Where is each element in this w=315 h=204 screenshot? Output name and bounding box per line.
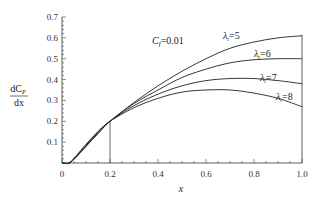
y-tick-label: 0.3 <box>47 95 59 105</box>
series-line-7 <box>62 78 302 163</box>
x-axis-label: x <box>178 183 184 194</box>
x-tick-label: 0.6 <box>200 169 212 179</box>
cf-annotation: Cf=0.01 <box>152 35 184 48</box>
chart: 0.10.20.30.40.50.60.700.20.40.60.81.0 Cf… <box>0 0 315 204</box>
x-tick-label: 0.8 <box>248 169 260 179</box>
series-line-8 <box>62 90 302 164</box>
y-tick-label: 0.2 <box>47 116 58 126</box>
y-tick-label: 0.6 <box>47 33 59 43</box>
x-tick-label: 1.0 <box>296 169 308 179</box>
x-tick-label: 0 <box>60 169 65 179</box>
y-tick-label: 0.1 <box>47 137 58 147</box>
y-axis-label: dCP dx <box>10 83 28 108</box>
x-tick-label: 0.4 <box>152 169 164 179</box>
x-tick-label: 0.2 <box>104 169 115 179</box>
series-label-8: λt=8 <box>275 91 293 103</box>
svg-text:dx: dx <box>14 97 24 108</box>
svg-text:dCP: dCP <box>10 83 26 95</box>
y-tick-label: 0.5 <box>47 54 59 64</box>
series-label-5: λt=5 <box>222 30 240 42</box>
series-label-7: λt=7 <box>259 72 277 84</box>
y-tick-label: 0.4 <box>47 75 59 85</box>
series-label-6: λt=6 <box>253 48 271 60</box>
y-tick-label: 0.7 <box>47 12 59 22</box>
